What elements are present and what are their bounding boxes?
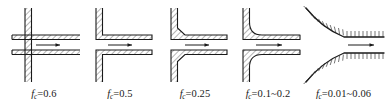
label-value: 0.25 bbox=[192, 88, 211, 99]
upper-wall-assembly bbox=[96, 8, 152, 40]
flow-arrow-icon bbox=[348, 43, 374, 46]
label-value: 0.6 bbox=[43, 88, 56, 99]
panel-chamfered-inlet: fc=0.25 bbox=[155, 0, 235, 111]
diagram-reentrant-inlet bbox=[0, 6, 88, 84]
flow-arrow-icon bbox=[256, 43, 282, 46]
lower-wall-assembly bbox=[171, 50, 227, 82]
label-value: 0.5 bbox=[119, 88, 132, 99]
lower-pipe-wall bbox=[12, 50, 80, 55]
panel-bellmouth-inlet: fc=0.01~0.06 bbox=[300, 0, 387, 111]
diagram-bellmouth-inlet bbox=[300, 6, 387, 84]
panel-reentrant-inlet: fc=0.6 bbox=[0, 0, 88, 111]
diagram-rounded-inlet bbox=[226, 6, 310, 84]
label-panel-4: fc=0.1~0.2 bbox=[226, 88, 310, 101]
lower-wall-assembly bbox=[96, 50, 152, 82]
label-value: 0.1~0.2 bbox=[258, 88, 291, 99]
lower-bellmouth-wall bbox=[303, 53, 384, 84]
panel-sharp-edged-inlet: fc=0.5 bbox=[80, 0, 160, 111]
diagram-chamfered-inlet bbox=[155, 6, 235, 84]
entrance-loss-coefficient-figure: fc=0.6 bbox=[0, 0, 387, 111]
diagram-sharp-edged-inlet bbox=[80, 6, 160, 84]
label-panel-3: fc=0.25 bbox=[155, 88, 235, 101]
flow-arrow-icon bbox=[36, 43, 60, 46]
upper-pipe-wall bbox=[12, 35, 80, 40]
flow-arrow-icon bbox=[185, 43, 209, 46]
label-value: 0.01~0.06 bbox=[328, 88, 371, 99]
flow-arrow-icon bbox=[108, 43, 132, 46]
label-panel-2: fc=0.5 bbox=[80, 88, 160, 101]
upper-bellmouth-wall bbox=[303, 6, 384, 37]
label-panel-1: fc=0.6 bbox=[0, 88, 88, 101]
panel-rounded-inlet: fc=0.1~0.2 bbox=[226, 0, 310, 111]
upper-wall-assembly bbox=[243, 8, 300, 40]
lower-wall-assembly bbox=[243, 50, 300, 82]
label-panel-5: fc=0.01~0.06 bbox=[300, 88, 387, 101]
tank-wall bbox=[25, 8, 32, 82]
upper-wall-assembly bbox=[171, 8, 227, 40]
